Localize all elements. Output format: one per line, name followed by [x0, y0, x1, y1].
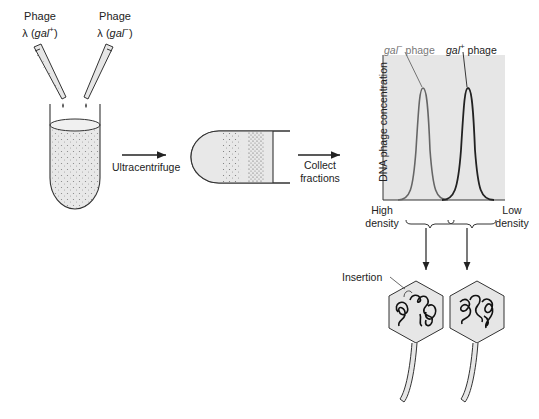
diagram-canvas	[0, 0, 539, 419]
label-insertion: Insertion	[342, 271, 382, 284]
peak-label-gal-minus: gal− phage	[384, 40, 435, 57]
fraction-braces	[406, 220, 496, 228]
pipette-label-gal-plus: Phage λ (gal+)	[10, 10, 70, 40]
pipette-gal-minus	[84, 44, 113, 99]
peak-label-gal-plus: gal+ phage	[446, 40, 497, 57]
label-phage: Phage	[85, 10, 145, 23]
centrifuge-tube	[191, 131, 290, 183]
collect-line1: Collect	[296, 159, 344, 172]
label-collect-fractions: Collect fractions	[296, 159, 344, 185]
label-phage: Phage	[10, 10, 70, 23]
label-ultracentrifuge: Ultracentrifuge	[112, 161, 178, 174]
test-tube	[50, 104, 100, 209]
high-line2: density	[360, 217, 404, 230]
lambda-prefix: λ (	[22, 27, 34, 39]
phage-with-insertion	[389, 277, 443, 402]
high-line1: High	[360, 204, 404, 217]
label-low-density: Low density	[490, 204, 534, 230]
label-high-density: High density	[360, 204, 404, 230]
label-suffix: )	[129, 27, 133, 39]
phage-normal	[450, 281, 504, 402]
phage-text: phage	[403, 44, 435, 56]
density-graph	[383, 52, 505, 200]
gene-name: gal	[446, 44, 460, 56]
low-line1: Low	[490, 204, 534, 217]
drops-icon	[62, 103, 87, 108]
gene-name: gal	[35, 27, 50, 39]
label-suffix: )	[54, 27, 58, 39]
phage-text: phage	[465, 44, 497, 56]
label-lambda-gal-minus: λ (gal−)	[85, 23, 145, 40]
gene-name: gal	[110, 27, 125, 39]
collect-line2: fractions	[296, 172, 344, 185]
graph-ylabel: DNA phage concentration	[377, 42, 390, 202]
pipette-gal-plus	[34, 44, 66, 99]
lambda-prefix: λ (	[97, 27, 109, 39]
gene-name: gal	[384, 44, 398, 56]
low-line2: density	[490, 217, 534, 230]
pipette-label-gal-minus: Phage λ (gal−)	[85, 10, 145, 40]
label-lambda-gal-plus: λ (gal+)	[10, 23, 70, 40]
